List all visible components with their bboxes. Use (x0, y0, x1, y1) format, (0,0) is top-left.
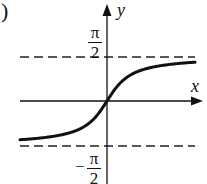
lower-tick-sign: − (75, 157, 85, 177)
x-axis-arrow-icon (191, 97, 203, 106)
lower-tick-denominator: 2 (87, 170, 101, 184)
arctan-plot (0, 0, 207, 184)
lower-tick-numerator: π (87, 150, 101, 167)
lower-tick-label: π 2 (87, 150, 101, 184)
x-axis-label: x (191, 76, 199, 97)
y-axis-arrow-icon (103, 4, 112, 16)
upper-tick-denominator: 2 (88, 44, 102, 61)
panel-label: ) (1, 0, 8, 24)
upper-tick-numerator: π (88, 24, 102, 41)
y-axis-label: y (117, 0, 125, 21)
upper-tick-label: π 2 (88, 24, 102, 61)
